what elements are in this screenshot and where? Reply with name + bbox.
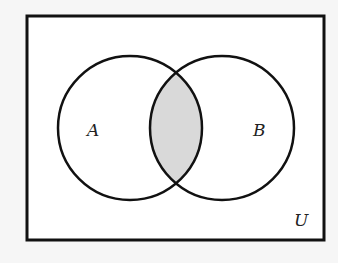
set-a-label: A (85, 120, 99, 140)
set-b-label: B (252, 120, 266, 140)
venn-diagram: A B U (0, 0, 338, 263)
universe-label: U (294, 210, 309, 230)
